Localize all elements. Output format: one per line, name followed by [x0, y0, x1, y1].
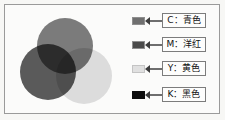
- legend-item-k[interactable]: K：黑色: [130, 87, 218, 109]
- cmy-venn-diagram: [10, 10, 122, 106]
- legend-arrow-icon-k: [145, 91, 150, 99]
- venn-circle-y: [56, 48, 112, 104]
- legend-arrow-icon-y: [145, 65, 150, 73]
- legend-arrow-icon-c: [145, 17, 150, 25]
- legend-label-box-k: K：黑色: [162, 87, 206, 102]
- legend-swatch-m: [132, 41, 145, 49]
- legend-item-m[interactable]: M：洋红: [130, 37, 218, 59]
- cmyk-venn-figure: C：青色 M：洋红 Y：黄色 K：黑色: [0, 0, 225, 120]
- legend-arrow-icon-m: [145, 41, 150, 49]
- legend-label-box-c: C：青色: [162, 13, 206, 28]
- legend-item-c[interactable]: C：青色: [130, 13, 218, 35]
- legend-label-box-m: M：洋红: [162, 37, 206, 52]
- legend-swatch-y: [132, 65, 145, 73]
- cmyk-legend: C：青色 M：洋红 Y：黄色 K：黑色: [130, 9, 218, 111]
- legend-swatch-k: [132, 91, 145, 99]
- legend-label-k: K：黑色: [168, 90, 201, 99]
- legend-label-box-y: Y：黄色: [162, 61, 206, 76]
- legend-swatch-c: [132, 17, 145, 25]
- legend-label-y: Y：黄色: [168, 64, 201, 73]
- legend-label-c: C：青色: [167, 16, 200, 25]
- legend-label-m: M：洋红: [167, 40, 202, 49]
- legend-item-y[interactable]: Y：黄色: [130, 61, 218, 83]
